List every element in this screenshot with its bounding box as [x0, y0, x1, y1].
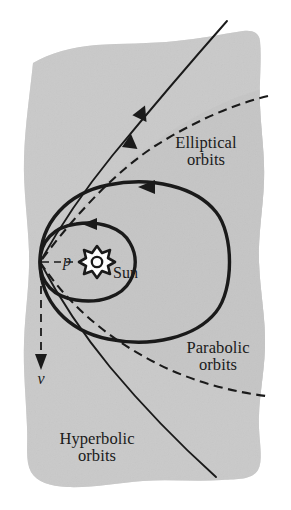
sun-symbol [79, 246, 115, 278]
label-velocity-v: v [33, 371, 49, 387]
label-hyperbolic-orbits: Hyperbolic orbits [26, 431, 168, 465]
orbit-diagram-figure: Elliptical orbits Parabolic orbits Hyper… [0, 0, 291, 510]
label-perihelion-distance-p: p [58, 253, 76, 269]
sun-core [92, 257, 102, 267]
label-elliptical-orbits: Elliptical orbits [146, 135, 266, 169]
label-parabolic-orbits: Parabolic orbits [158, 340, 278, 374]
label-sun: Sun [113, 265, 163, 281]
